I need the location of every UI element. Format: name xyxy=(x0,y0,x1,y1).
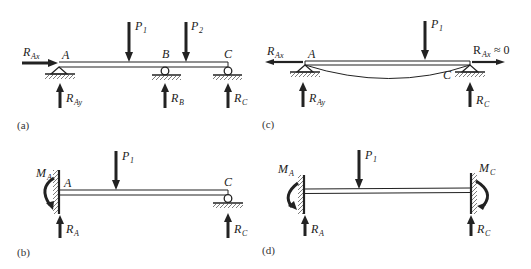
svg-text:R: R xyxy=(475,93,484,107)
svg-text:R: R xyxy=(476,222,485,236)
point-label-a: A xyxy=(61,48,70,62)
beam-b xyxy=(60,190,228,195)
load-arrow-p2: P2 xyxy=(182,19,203,62)
point-label-c: C xyxy=(443,68,452,82)
reaction-arrow-rax: RAx xyxy=(22,45,58,67)
svg-text:R: R xyxy=(65,222,74,236)
panel-d: MA MC P1 RA RC (d) xyxy=(262,148,496,257)
svg-text:A: A xyxy=(46,173,52,182)
svg-text:1: 1 xyxy=(439,24,443,33)
svg-text:C: C xyxy=(242,229,248,238)
reaction-arrow-ray: RAy xyxy=(299,82,325,107)
panel-caption-c: (c) xyxy=(262,118,275,131)
load-arrow-p1: P1 xyxy=(421,17,443,60)
svg-text:P: P xyxy=(430,17,439,31)
svg-text:Ax: Ax xyxy=(481,50,491,59)
fixed-support-c xyxy=(471,173,477,214)
svg-text:Ax: Ax xyxy=(30,52,40,61)
fixed-support-a xyxy=(53,170,59,214)
svg-text:R: R xyxy=(233,222,242,236)
reaction-arrow-rc: RC xyxy=(467,215,491,238)
moment-arrow-ma: MA xyxy=(35,166,54,210)
svg-text:P: P xyxy=(121,149,130,163)
svg-text:2: 2 xyxy=(199,26,203,35)
svg-text:M: M xyxy=(277,162,289,176)
roller-support-c xyxy=(213,67,242,80)
reaction-arrow-rc: RC xyxy=(224,83,248,108)
load-arrow-p1: P1 xyxy=(125,19,147,62)
svg-text:1: 1 xyxy=(130,156,134,165)
svg-text:C: C xyxy=(242,98,248,107)
moment-arrow-ma: MA xyxy=(277,162,298,210)
svg-text:R: R xyxy=(266,44,275,58)
panel-a: P1 P2 RAx A B C RAy RB xyxy=(17,19,248,132)
reaction-arrow-rb: RB xyxy=(161,83,184,108)
svg-text:R: R xyxy=(22,45,31,59)
svg-text:R: R xyxy=(308,91,317,105)
svg-text:R: R xyxy=(65,91,74,105)
svg-text:R: R xyxy=(310,222,319,236)
pin-support-c xyxy=(455,65,485,77)
svg-text:Ay: Ay xyxy=(316,98,325,107)
fixed-support-a xyxy=(298,175,304,214)
beam-c xyxy=(305,61,470,65)
reaction-arrow-rax-left: RAx xyxy=(265,44,303,65)
panel-caption-d: (d) xyxy=(262,244,275,257)
svg-text:R: R xyxy=(473,43,481,57)
reaction-arrow-rc: RC xyxy=(224,213,248,238)
load-arrow-p1: P1 xyxy=(112,149,134,190)
svg-text:P: P xyxy=(190,19,199,33)
roller-support-b xyxy=(152,67,181,80)
reaction-arrow-ra: RA xyxy=(56,215,79,238)
svg-text:≈ 0: ≈ 0 xyxy=(494,43,510,57)
reaction-arrow-ra: RA xyxy=(301,215,324,238)
panel-c: P1 RAx RAx ≈ 0 A C RAy RC (c) xyxy=(262,17,510,131)
panel-caption-a: (a) xyxy=(17,119,30,132)
point-label-a: A xyxy=(63,176,72,190)
svg-text:R: R xyxy=(233,91,242,105)
svg-text:C: C xyxy=(485,229,491,238)
svg-text:B: B xyxy=(179,98,184,107)
beam-diagram-figure: P1 P2 RAx A B C RAy RB xyxy=(0,0,531,269)
svg-text:P: P xyxy=(134,19,143,33)
svg-text:P: P xyxy=(364,148,373,162)
point-label-c: C xyxy=(224,47,233,61)
reaction-arrow-rax-right: RAx ≈ 0 xyxy=(472,43,510,65)
svg-text:M: M xyxy=(35,166,47,180)
load-arrow-p1: P1 xyxy=(355,148,377,189)
svg-text:A: A xyxy=(288,169,294,178)
svg-text:Ax: Ax xyxy=(274,51,284,60)
panel-b: MA A C P1 RA RC (b) xyxy=(17,149,248,259)
point-label-a: A xyxy=(307,47,316,61)
svg-text:R: R xyxy=(170,91,179,105)
svg-text:1: 1 xyxy=(143,26,147,35)
svg-text:A: A xyxy=(73,229,79,238)
moment-arrow-mc: MC xyxy=(476,161,496,210)
pin-support-a xyxy=(45,67,75,79)
svg-text:1: 1 xyxy=(373,155,377,164)
roller-support-c xyxy=(213,195,243,208)
svg-text:A: A xyxy=(318,229,324,238)
point-label-c: C xyxy=(224,175,233,189)
reaction-arrow-ray: RAy xyxy=(56,83,82,108)
svg-text:Ay: Ay xyxy=(73,98,82,107)
beam-a xyxy=(59,62,228,67)
svg-text:C: C xyxy=(490,168,496,177)
svg-text:M: M xyxy=(478,161,490,175)
reaction-arrow-rc: RC xyxy=(466,82,490,109)
beam-d xyxy=(305,188,470,194)
point-label-b: B xyxy=(162,47,170,61)
pin-support-a xyxy=(290,65,320,77)
panel-caption-b: (b) xyxy=(17,246,30,259)
svg-text:C: C xyxy=(484,100,490,109)
